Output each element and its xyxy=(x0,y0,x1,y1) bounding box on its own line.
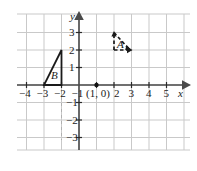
x-tick-label-neg-3: −3 xyxy=(37,88,49,99)
y-axis xyxy=(74,11,84,150)
grid-horizontal-lines xyxy=(17,14,190,150)
y-tick-label-2: 2 xyxy=(69,45,75,56)
x-tick-label-5: 5 xyxy=(164,88,170,99)
grid-vertical-lines xyxy=(27,14,185,150)
y-tick-label-1: 1 xyxy=(69,62,75,73)
y-tick-label-neg-1: −1 xyxy=(66,97,78,108)
y-tick-label-neg-2: −2 xyxy=(66,115,78,126)
x-tick-label-neg-4: −4 xyxy=(19,88,31,99)
x-tick-label-2: 2 xyxy=(114,88,120,99)
x-tick-label-neg-2: −2 xyxy=(54,88,66,99)
x-axis-name: x xyxy=(178,88,183,99)
triangle-B-label: B xyxy=(51,70,58,81)
y-tick-label-3: 3 xyxy=(69,27,75,38)
point-1-0-label: (1, 0) xyxy=(86,88,110,99)
triangle-A-label: A xyxy=(117,39,124,50)
x-tick-label-4: 4 xyxy=(146,88,152,99)
coordinate-plane-figure: −4 −3 −2 −1 2 3 4 5 (1, 0) 3 2 1 −1 −2 −… xyxy=(0,0,197,171)
y-tick-label-neg-3: −3 xyxy=(66,132,78,143)
x-tick-label-3: 3 xyxy=(129,88,135,99)
plot-canvas xyxy=(0,0,197,171)
y-axis-name: y xyxy=(70,11,75,22)
